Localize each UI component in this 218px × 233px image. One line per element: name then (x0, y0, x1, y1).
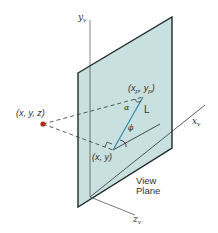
length-label: L (144, 104, 150, 115)
y-axis-label: yv (78, 13, 86, 23)
world-point (40, 121, 45, 126)
alpha-label: α (124, 104, 129, 112)
z-axis (90, 197, 135, 215)
x-axis-label: xv (192, 117, 200, 127)
orthographic-point-label: (x, y) (92, 153, 112, 163)
world-point-label: (x, y, z) (16, 109, 45, 119)
projected-point-label: (xp, yp) (128, 84, 155, 95)
z-axis-label: zv (133, 215, 141, 225)
view-plane-label: View Plane (136, 176, 160, 197)
phi-label: ϕ (128, 124, 133, 132)
